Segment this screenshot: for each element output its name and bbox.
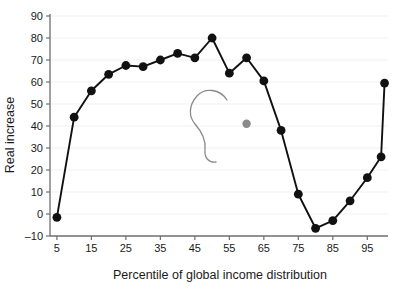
data-point-marker xyxy=(277,126,286,135)
y-tick-label: 40 xyxy=(31,120,43,132)
y-tick-label: 90 xyxy=(31,10,43,22)
grey-dot-icon xyxy=(242,120,250,128)
x-tick-label: 15 xyxy=(85,242,97,254)
y-tick-label: 0 xyxy=(37,208,43,220)
x-tick-label: 45 xyxy=(189,242,201,254)
data-point-marker xyxy=(87,86,96,95)
data-point-marker xyxy=(377,152,386,161)
data-point-marker xyxy=(52,213,61,222)
x-tick-label: 5 xyxy=(54,242,60,254)
data-point-marker xyxy=(70,113,79,122)
x-tick-label: 75 xyxy=(292,242,304,254)
data-point-marker xyxy=(156,56,165,65)
x-tick-label: 55 xyxy=(223,242,235,254)
chart-container: –100102030405060708090 51525354555657585… xyxy=(0,0,393,291)
data-point-marker xyxy=(173,49,182,58)
y-tick-label: 80 xyxy=(31,32,43,44)
y-tick-label: 50 xyxy=(31,98,43,110)
data-point-marker xyxy=(259,77,268,86)
data-point-marker xyxy=(328,216,337,225)
data-point-marker xyxy=(380,79,389,88)
y-tick-label: 30 xyxy=(31,142,43,154)
data-point-marker xyxy=(242,53,251,62)
y-tick-label: –10 xyxy=(25,230,43,242)
y-axis-title: Real increase xyxy=(3,97,17,173)
data-point-marker xyxy=(121,61,130,70)
data-point-marker xyxy=(104,70,113,79)
data-point-marker xyxy=(311,224,320,233)
income-increase-line-chart: –100102030405060708090 51525354555657585… xyxy=(0,0,393,291)
data-point-marker xyxy=(190,53,199,62)
y-tick-label: 20 xyxy=(31,164,43,176)
x-tick-label: 85 xyxy=(327,242,339,254)
data-point-marker xyxy=(139,62,148,71)
data-point-marker xyxy=(208,34,217,43)
y-tick-label: 10 xyxy=(31,186,43,198)
data-point-marker xyxy=(225,69,234,78)
x-axis-title: Percentile of global income distribution xyxy=(113,268,327,282)
data-point-marker xyxy=(346,196,355,205)
x-tick-label: 25 xyxy=(120,242,132,254)
x-tick-label: 35 xyxy=(154,242,166,254)
data-point-marker xyxy=(294,190,303,199)
x-tick-label: 65 xyxy=(258,242,270,254)
y-tick-label: 70 xyxy=(31,54,43,66)
x-tick-label: 95 xyxy=(361,242,373,254)
data-point-marker xyxy=(363,173,372,182)
y-tick-label: 60 xyxy=(31,76,43,88)
